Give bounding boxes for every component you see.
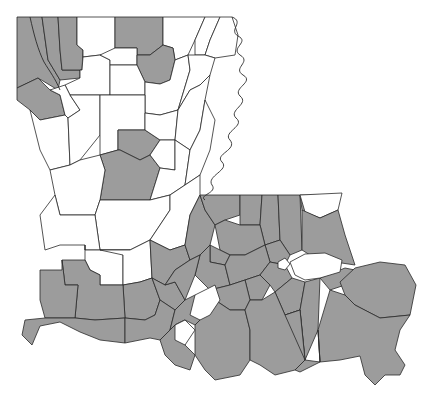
- parish-east-feliciana: [240, 195, 262, 225]
- parish-grant: [100, 150, 160, 200]
- parish-cameron: [22, 318, 125, 345]
- parish-map-svg: [0, 0, 433, 401]
- parish-layer: [17, 17, 416, 385]
- parish-sabine: [30, 110, 70, 170]
- louisiana-map: [0, 0, 433, 401]
